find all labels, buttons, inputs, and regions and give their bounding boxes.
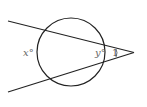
diagram-canvas: x° y° 1 [0, 0, 147, 107]
far-arc-label: x° [23, 47, 34, 58]
secant-diagram: x° y° 1 [0, 0, 147, 107]
near-arc-label: y° [94, 47, 106, 58]
angle-1-label: 1 [112, 47, 118, 58]
